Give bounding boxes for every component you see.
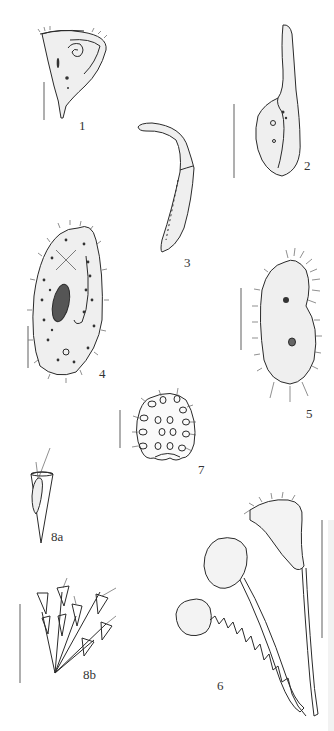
figure-2-label: 2 bbox=[304, 159, 311, 172]
figure-3-label: 3 bbox=[184, 256, 191, 269]
figure-4-label: 4 bbox=[99, 367, 106, 380]
figure-5-label: 5 bbox=[306, 407, 313, 420]
figure-8b-drawing bbox=[20, 578, 116, 683]
figure-8a-label: 8a bbox=[51, 530, 63, 543]
figure-6-label: 6 bbox=[217, 679, 224, 692]
figure-1-label: 1 bbox=[79, 119, 86, 132]
figure-6-drawing bbox=[176, 492, 322, 716]
figure-7-label: 7 bbox=[198, 463, 205, 476]
plate-drawings bbox=[0, 0, 334, 731]
page-edge-shadow bbox=[328, 520, 334, 731]
figure-1-drawing bbox=[38, 26, 107, 120]
figure-8b-label: 8b bbox=[83, 668, 96, 681]
figure-8a-drawing bbox=[31, 448, 53, 543]
figure-4-drawing bbox=[27, 220, 109, 383]
figure-5-drawing bbox=[241, 248, 322, 402]
illustration-plate: 1 2 3 4 5 7 8a 8b 6 bbox=[0, 0, 334, 731]
figure-3-drawing bbox=[138, 123, 194, 252]
figure-2-drawing bbox=[234, 25, 300, 178]
figure-7-drawing bbox=[120, 388, 196, 460]
